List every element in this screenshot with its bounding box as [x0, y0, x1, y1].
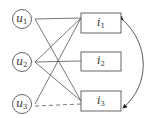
- edge-u1-i1: [35, 18, 81, 19]
- edge-u3-i3-dashed: [35, 104, 81, 106]
- bipartite-graph: u1 u2 u3 i1 i2 i3: [0, 0, 156, 118]
- edge-u2-i3: [35, 62, 81, 101]
- edge-u2-i1: [35, 18, 81, 62]
- curved-arrow-i1-i3: [123, 20, 143, 108]
